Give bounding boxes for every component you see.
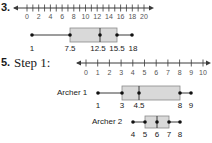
- min-label: 1: [96, 101, 100, 110]
- archer-2-label: Archer 2: [92, 117, 122, 126]
- tick-label: 9: [189, 69, 193, 76]
- arrow-left-icon: [13, 6, 18, 11]
- tick-label: 6: [60, 13, 64, 20]
- archer-1-label: Archer 1: [57, 88, 87, 97]
- tick-label: 4: [131, 69, 135, 76]
- q1-label: 3: [120, 101, 124, 110]
- q3-label: 7: [167, 130, 171, 139]
- q3-label: 8: [178, 101, 182, 110]
- tick-label: 10: [199, 69, 207, 76]
- tick-label: 10: [82, 13, 90, 20]
- tick-label: 4: [48, 13, 52, 20]
- min-label: 4: [131, 130, 135, 139]
- q3-label: 15.5: [109, 44, 125, 53]
- tick-label: 8: [178, 69, 182, 76]
- box-plot-archer-1: [96, 86, 193, 100]
- tick-label: 6: [154, 69, 158, 76]
- min-label: 1: [30, 44, 34, 53]
- q1-label: 5: [143, 130, 147, 139]
- tick-label: 18: [128, 13, 136, 20]
- tick-label: 0: [84, 69, 88, 76]
- tick-label: 5: [143, 69, 147, 76]
- tick-label: 2: [37, 13, 41, 20]
- tick-label: 1: [96, 69, 100, 76]
- number-line-1: [13, 5, 154, 12]
- tick-label: 3: [119, 69, 123, 76]
- step-label: Step 1:: [14, 55, 50, 71]
- box-plot-problem-3: [30, 28, 134, 42]
- arrow-left-icon: [76, 61, 81, 66]
- tick-label: 8: [72, 13, 76, 20]
- tick-label: 2: [107, 69, 111, 76]
- problem-5-number: 5.: [1, 56, 10, 68]
- q1-label: 7.5: [64, 44, 75, 53]
- median-label: 12.5: [90, 44, 106, 53]
- tick-label: 12: [93, 13, 101, 20]
- median-label: 6: [155, 130, 159, 139]
- median-label: 4.5: [133, 101, 144, 110]
- tick-label: 16: [117, 13, 125, 20]
- max-label: 8: [178, 130, 182, 139]
- tick-label: 0: [25, 13, 29, 20]
- tick-label: 20: [140, 13, 148, 20]
- arrow-right-icon: [206, 61, 211, 66]
- max-label: 9: [189, 101, 193, 110]
- max-label: 18: [129, 44, 138, 53]
- arrow-right-icon: [149, 6, 154, 11]
- tick-label: 7: [166, 69, 170, 76]
- box-plot-archer-2: [131, 116, 182, 128]
- number-line-2: [76, 60, 211, 67]
- tick-label: 14: [105, 13, 113, 20]
